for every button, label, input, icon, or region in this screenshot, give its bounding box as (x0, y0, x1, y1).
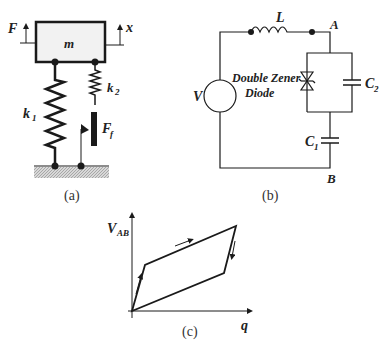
spring-k1-subscript: 1 (32, 113, 37, 123)
caption-b: (b) (262, 188, 279, 204)
spring-k2-label: k (107, 80, 114, 95)
caption-a: (a) (64, 188, 80, 204)
panel-c-hysteresis-plot: V AB q (c) (107, 215, 250, 340)
inductor-label: L (275, 10, 285, 25)
force-label: F (7, 21, 18, 36)
panel-b-circuit: L A Double Zener Diode C 2 C (193, 10, 379, 204)
direction-arrow-icon (175, 240, 191, 246)
figure-canvas: F x m k 1 k 2 F f (0, 0, 386, 350)
inductor-icon (251, 27, 312, 32)
x-axis-label: q (241, 318, 248, 333)
capacitor-c1-icon (321, 138, 339, 143)
friction-element-icon (81, 112, 97, 165)
panel-a-mechanical-model: F x m k 1 k 2 F f (7, 20, 133, 204)
friction-subscript: f (110, 129, 114, 139)
diode-label-line1: Double Zener (231, 71, 301, 85)
caption-c: (c) (182, 324, 198, 340)
node-a-label: A (329, 17, 339, 32)
node-b-label: B (326, 171, 336, 186)
force-arrow-icon (20, 26, 37, 43)
spring-k2-subscript: 2 (114, 87, 120, 97)
cap-c2-subscript: 2 (373, 84, 379, 94)
spring-k1-label: k (23, 106, 30, 121)
mass-label: m (64, 36, 74, 51)
cap-c1-subscript: 1 (314, 142, 319, 152)
wire (307, 85, 352, 112)
ground-joint-icon (52, 163, 59, 170)
ground-joint-icon (78, 163, 85, 170)
ground-hatch (34, 167, 109, 178)
source-label: V (193, 89, 204, 104)
hysteresis-loop (132, 226, 236, 311)
spring-k1-icon (46, 62, 64, 165)
displacement-arrow-icon (105, 27, 124, 45)
y-axis-subscript: AB (116, 228, 129, 238)
voltage-source-icon (204, 80, 236, 112)
displacement-label: x (125, 20, 133, 35)
capacitor-c2-icon (343, 80, 361, 85)
diode-label-line2: Diode (244, 86, 275, 100)
wire (312, 32, 330, 53)
spring-k2-icon (90, 62, 100, 105)
